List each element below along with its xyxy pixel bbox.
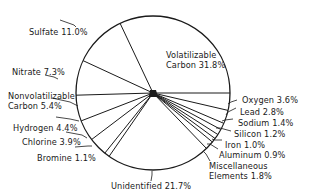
label-sulfate: Sulfate 11.0%: [29, 28, 88, 38]
label-oxygen: Oxygen 3.6%: [242, 96, 298, 106]
label-chlorine: Chlorine 3.9%: [22, 138, 81, 148]
label-nonvol-line2: Carbon 5.4%: [8, 102, 62, 112]
slice-boundary: [153, 93, 218, 135]
label-hydrogen: Hydrogen 4.4%: [13, 124, 78, 134]
slice-boundary: [153, 93, 221, 129]
label-volatilizable-line2: Carbon 31.8%: [166, 61, 225, 71]
label-unidentified: Unidentified 21.7%: [111, 182, 191, 192]
slice-boundary: [92, 93, 153, 140]
center-hub: [149, 90, 158, 97]
slice-boundaries: [76, 23, 230, 156]
label-silicon: Silicon 1.2%: [234, 130, 285, 140]
label-sodium: Sodium 1.4%: [238, 119, 293, 129]
label-misc-line2: Elements 1.8%: [209, 172, 272, 182]
label-lead: Lead 2.8%: [240, 108, 284, 118]
slice-boundary: [153, 93, 206, 148]
label-bromine: Bromine 1.1%: [37, 154, 96, 164]
label-nitrate: Nitrate 7.3%: [12, 68, 65, 78]
slice-boundary: [83, 61, 153, 93]
slice-boundary: [76, 93, 153, 95]
label-aluminum: Aluminum 0.9%: [219, 151, 285, 161]
slice-boundary: [120, 23, 153, 93]
slice-boundary: [109, 93, 153, 156]
